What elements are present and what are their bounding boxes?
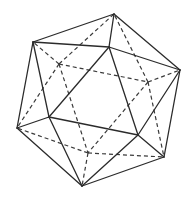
icosahedron-diagram — [0, 0, 192, 201]
visible-edge-b-br — [82, 157, 164, 186]
visible-edge-t-f1 — [109, 14, 114, 47]
visible-edge-t-ul — [33, 14, 114, 42]
hidden-edge-h3-br — [88, 153, 164, 157]
visible-edge-f1-r — [109, 47, 180, 70]
visible-edges-group — [17, 14, 180, 186]
hidden-edge-h2-h3 — [88, 82, 148, 153]
icosahedron-wireframe — [0, 0, 192, 201]
hidden-edge-h3-l — [17, 128, 88, 153]
hidden-edge-h2-t — [114, 14, 148, 82]
visible-edge-l-b — [17, 128, 82, 186]
visible-edge-f1-f3 — [109, 47, 138, 135]
visible-edge-l-f2 — [17, 117, 49, 128]
visible-edge-f2-f3 — [49, 117, 138, 135]
visible-edge-f3-b — [82, 135, 138, 186]
visible-edge-f2-b — [49, 117, 82, 186]
hidden-edge-h2-r — [148, 70, 180, 82]
visible-edge-f1-f2 — [49, 47, 109, 117]
hidden-edge-h1-h2 — [59, 64, 148, 82]
visible-edge-t-r — [114, 14, 180, 70]
visible-edge-ul-l — [17, 42, 33, 128]
visible-edge-ul-f1 — [33, 42, 109, 47]
hidden-edge-h1-t — [59, 14, 114, 64]
